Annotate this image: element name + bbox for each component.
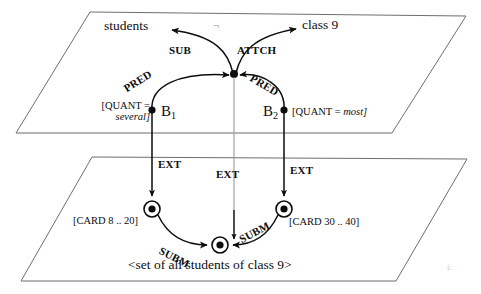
edge-label-attch: ATTCH bbox=[237, 45, 276, 57]
upper-plane-outline bbox=[16, 12, 466, 133]
junction-node bbox=[230, 70, 238, 78]
edge-label-ext-middle: EXT bbox=[216, 169, 239, 181]
set-node-left bbox=[144, 201, 160, 217]
attribute-quant-b2-line1: [QUANT = bbox=[292, 106, 341, 117]
edge-label-ext-left: EXT bbox=[158, 159, 181, 171]
attribute-quant-b1-line2: several] bbox=[116, 111, 150, 122]
attribute-quant-b2-line2: most] bbox=[343, 106, 367, 117]
node-label-b2-base: B bbox=[263, 103, 273, 119]
concept-label-class9: class 9 bbox=[302, 18, 338, 32]
edge-label-ext-right: EXT bbox=[290, 165, 313, 177]
node-label-b1-base: B bbox=[161, 103, 171, 119]
concept-label-students: students bbox=[104, 19, 148, 33]
node-label-b1: B1 bbox=[161, 104, 176, 122]
attribute-quant-b1-line1: [QUANT = bbox=[101, 100, 150, 111]
set-node-right bbox=[276, 201, 292, 217]
attribute-quant-b2: [QUANT = most] bbox=[292, 106, 367, 117]
cardinality-label-right: [CARD 30 .. 40] bbox=[289, 216, 359, 227]
attribute-quant-b1: [QUANT = several] bbox=[88, 100, 150, 122]
scan-artifact-corner: i: bbox=[447, 262, 452, 272]
scan-artifact-top: ¬ bbox=[213, 19, 219, 31]
node-label-b2: B2 bbox=[263, 104, 278, 122]
node-label-b2-subscript: 2 bbox=[273, 110, 278, 121]
lower-plane-caption: <set of all students of class 9> bbox=[128, 258, 292, 272]
edge-label-sub: SUB bbox=[169, 45, 191, 57]
cardinality-label-left: [CARD 8 .. 20] bbox=[73, 215, 138, 226]
node-label-b1-subscript: 1 bbox=[171, 110, 176, 121]
figure-canvas: students class 9 SUB ATTCH PRED PRED [QU… bbox=[0, 0, 481, 294]
edge-subm-left bbox=[158, 215, 207, 245]
set-node-bottom bbox=[212, 237, 228, 253]
